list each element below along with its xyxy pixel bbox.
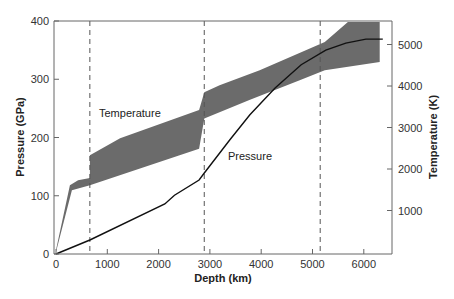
x-tick-label: 0 <box>53 258 59 270</box>
x-tick-label: 6000 <box>352 258 376 270</box>
y-tick-label: 300 <box>31 73 49 85</box>
x-tick-label: 5000 <box>300 258 324 270</box>
y2-tick-label: 2000 <box>398 163 422 175</box>
x-tick-label: 1000 <box>95 258 119 270</box>
x-tick-label: 3000 <box>198 258 222 270</box>
temperature-label: Temperature <box>99 107 161 119</box>
y-tick-label: 100 <box>31 190 49 202</box>
pressure-label: Pressure <box>228 150 272 162</box>
y2-tick-label: 5000 <box>398 39 422 51</box>
pressure-curve <box>56 39 383 254</box>
depth-pressure-temperature-chart: 0100020003000400050006000 0100200300400 … <box>0 0 454 299</box>
x-tick-label: 4000 <box>249 258 273 270</box>
y2-tick-label: 1000 <box>398 205 422 217</box>
y-axis-left-ticks: 0100200300400 <box>31 15 59 260</box>
y-axis-right-title: Temperature (K) <box>427 95 439 179</box>
y2-tick-label: 3000 <box>398 122 422 134</box>
x-axis-ticks: 0100020003000400050006000 <box>53 249 376 270</box>
x-axis-title: Depth (km) <box>194 272 252 284</box>
y-tick-label: 400 <box>31 15 49 27</box>
x-tick-label: 2000 <box>146 258 170 270</box>
temperature-band <box>56 22 380 252</box>
temperature-band-area <box>56 22 380 252</box>
y-tick-label: 0 <box>43 248 49 260</box>
pressure-line <box>56 39 383 254</box>
y2-tick-label: 4000 <box>398 80 422 92</box>
y-axis-left-title: Pressure (GPa) <box>14 97 26 177</box>
y-tick-label: 200 <box>31 132 49 144</box>
